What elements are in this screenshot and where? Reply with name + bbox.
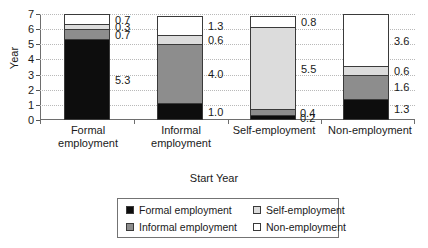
bar-segment-value: 0.6 bbox=[208, 34, 223, 46]
bar-segment-non[interactable]: 1.3 bbox=[158, 17, 202, 36]
y-tick-label: 2 bbox=[28, 84, 34, 95]
bar-segment-value: 1.0 bbox=[208, 106, 223, 118]
y-tick-label: 4 bbox=[28, 54, 34, 65]
x-category-label-line: employment bbox=[41, 137, 135, 150]
y-tick-label: 6 bbox=[28, 24, 34, 35]
bar-segment-informal[interactable]: 1.6 bbox=[344, 76, 388, 100]
bar-segment-non[interactable]: 0.8 bbox=[251, 17, 295, 29]
y-tick-label: 0 bbox=[28, 115, 34, 126]
bar-segment-non[interactable]: 3.6 bbox=[344, 15, 388, 67]
legend-item-non-employment[interactable]: Non-employment bbox=[253, 221, 348, 233]
stacked-bar[interactable]: 1.0 4.0 0.6 1.3 bbox=[157, 16, 203, 120]
bar-segment-value: 5.3 bbox=[115, 74, 130, 86]
legend-label: Non-employment bbox=[266, 221, 346, 233]
legend-swatch-icon bbox=[126, 206, 134, 214]
bar-segment-value: 5.5 bbox=[301, 63, 316, 75]
bar-segment-value: 1.3 bbox=[394, 103, 409, 115]
y-tick-mark bbox=[36, 75, 40, 76]
bar-segment-formal[interactable]: 5.3 bbox=[65, 40, 109, 119]
y-tick-mark bbox=[36, 14, 40, 15]
y-tick-mark bbox=[36, 44, 40, 45]
y-tick-mark bbox=[36, 105, 40, 106]
x-category-label-line: Formal bbox=[41, 124, 135, 137]
x-category-label-non-employment: Non-employment bbox=[320, 124, 420, 137]
legend: Formal employment Self-employment Inform… bbox=[117, 198, 339, 238]
bar-segment-value: 0.7 bbox=[115, 14, 130, 26]
bar-segment-value: 0.8 bbox=[301, 16, 316, 28]
bar-group: 1.0 4.0 0.6 1.3 bbox=[157, 14, 203, 120]
y-tick-label: 7 bbox=[28, 9, 34, 20]
stacked-bar-chart: Year 0 1 2 3 4 5 6 bbox=[0, 0, 428, 248]
bar-group: 1.3 1.6 0.6 3.6 bbox=[343, 14, 389, 120]
y-tick-mark bbox=[36, 29, 40, 30]
y-tick-label: 3 bbox=[28, 69, 34, 80]
bar-segment-non[interactable]: 0.7 bbox=[65, 15, 109, 25]
legend-swatch-icon bbox=[253, 206, 261, 214]
x-category-label-line: employment bbox=[134, 137, 228, 150]
legend-item-informal-employment[interactable]: Informal employment bbox=[126, 221, 253, 233]
bar-segment-self[interactable]: 0.6 bbox=[344, 67, 388, 76]
legend-swatch-icon bbox=[126, 223, 134, 231]
bar-segment-self[interactable]: 5.5 bbox=[251, 28, 295, 110]
x-category-label-informal-employment: Informal employment bbox=[134, 124, 228, 150]
stacked-bar[interactable]: 1.3 1.6 0.6 3.6 bbox=[343, 14, 389, 120]
y-tick-label: 5 bbox=[28, 39, 34, 50]
bar-segment-informal[interactable]: 0.7 bbox=[65, 30, 109, 40]
legend-item-self-employment[interactable]: Self-employment bbox=[253, 204, 348, 216]
y-tick-mark bbox=[36, 90, 40, 91]
stacked-bar[interactable]: 5.3 0.7 0.3 0.7 bbox=[64, 14, 110, 120]
y-tick-mark bbox=[36, 59, 40, 60]
legend-label: Self-employment bbox=[266, 204, 345, 216]
plot-frame: 0 1 2 3 4 5 6 7 bbox=[40, 14, 415, 120]
legend-label: Informal employment bbox=[139, 221, 237, 233]
legend-label: Formal employment bbox=[139, 204, 232, 216]
stacked-bar[interactable]: 0.2 0.4 5.5 0.8 bbox=[250, 16, 296, 120]
bar-segment-informal[interactable]: 4.0 bbox=[158, 45, 202, 104]
bar-segment-value: 0.6 bbox=[394, 65, 409, 77]
x-axis-title: Start Year bbox=[0, 172, 428, 184]
bar-segment-value: 3.6 bbox=[394, 35, 409, 47]
legend-item-formal-employment[interactable]: Formal employment bbox=[126, 204, 253, 216]
x-category-label-formal-employment: Formal employment bbox=[41, 124, 135, 150]
bar-segment-self[interactable]: 0.3 bbox=[65, 25, 109, 29]
legend-swatch-icon bbox=[253, 223, 261, 231]
bar-group: 0.2 0.4 5.5 0.8 bbox=[250, 14, 296, 120]
bar-segment-self[interactable]: 0.6 bbox=[158, 36, 202, 45]
bar-group: 5.3 0.7 0.3 0.7 bbox=[64, 14, 110, 120]
bar-segment-value: 1.3 bbox=[208, 20, 223, 32]
y-axis-title: Year bbox=[8, 28, 20, 88]
bar-segment-value: 1.6 bbox=[394, 81, 409, 93]
plot-area: 0 1 2 3 4 5 6 7 bbox=[40, 14, 415, 120]
bar-segment-formal[interactable]: 1.3 bbox=[344, 100, 388, 119]
x-category-label-line: Informal bbox=[134, 124, 228, 137]
bar-segment-formal[interactable]: 1.0 bbox=[158, 104, 202, 119]
x-category-label-line: Self-employment bbox=[227, 124, 321, 137]
y-tick-label: 1 bbox=[28, 99, 34, 110]
bar-segment-informal[interactable]: 0.4 bbox=[251, 110, 295, 116]
bar-segment-formal[interactable]: 0.2 bbox=[251, 116, 295, 119]
x-category-label-self-employment: Self-employment bbox=[227, 124, 321, 137]
bar-segment-value: 0.4 bbox=[300, 107, 315, 119]
bar-segment-value: 4.0 bbox=[208, 68, 223, 80]
x-category-label-line: Non-employment bbox=[320, 124, 420, 137]
